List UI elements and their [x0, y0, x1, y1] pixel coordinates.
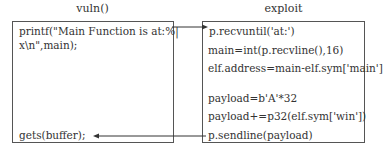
- arrow-sendline-to-gets: [93, 134, 206, 139]
- arrow-printf-to-recvuntil: [172, 25, 208, 30]
